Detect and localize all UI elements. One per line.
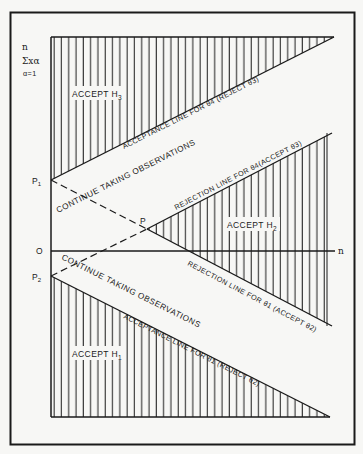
point-p1-label: P1 <box>32 176 42 187</box>
y-axis-label-sum: Σxα <box>22 56 40 66</box>
point-p2-label: P2 <box>32 272 42 283</box>
point-p-label: P <box>140 216 146 226</box>
sequential-test-diagram: n Σxα α=1 n O P1 P2 P ACCEPT H3 ACCEPT H… <box>0 0 363 454</box>
origin-label: O <box>36 246 43 256</box>
y-axis-label-index: α=1 <box>23 69 37 78</box>
x-axis-label-n: n <box>338 246 344 256</box>
y-axis-label-n: n <box>22 42 28 52</box>
